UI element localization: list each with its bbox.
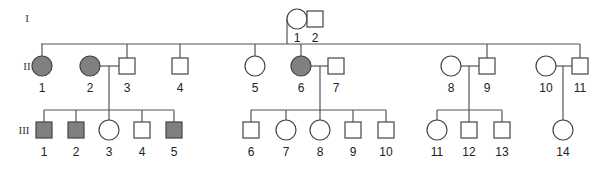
female-circle (553, 120, 573, 140)
individual-II-2: 2 (80, 56, 100, 95)
generation-label-III: III (19, 124, 30, 136)
individual-number: 3 (106, 145, 113, 159)
individual-number: 11 (574, 81, 587, 95)
individual-II-11: 11 (572, 58, 588, 95)
individual-number: 1 (294, 31, 301, 45)
male-square (378, 122, 394, 138)
individual-number: 14 (556, 145, 570, 159)
affected-female-circle (80, 56, 100, 76)
male-square (134, 122, 150, 138)
individual-number: 4 (139, 145, 146, 159)
individual-number: 9 (484, 81, 491, 95)
affected-male-square (166, 122, 182, 138)
individual-number: 4 (177, 81, 184, 95)
female-circle (427, 120, 447, 140)
individual-III-5: 5 (166, 122, 182, 159)
individual-III-12: 12 (461, 122, 477, 159)
individual-II-8: 8 (441, 56, 461, 95)
affected-female-circle (291, 56, 311, 76)
individual-number: 10 (379, 145, 393, 159)
individual-number: 5 (171, 145, 178, 159)
individual-III-10: 10 (378, 122, 394, 159)
female-circle (310, 120, 330, 140)
female-circle (245, 56, 265, 76)
individual-number: 6 (298, 81, 305, 95)
individual-number: 8 (317, 145, 324, 159)
male-square (328, 58, 344, 74)
individual-I-2: 2 (307, 11, 323, 45)
male-square (172, 58, 188, 74)
individual-III-11: 11 (427, 120, 447, 159)
male-square (307, 11, 323, 27)
individual-number: 5 (252, 81, 259, 95)
individual-number: 11 (431, 145, 444, 159)
individual-number: 1 (41, 145, 48, 159)
individual-III-14: 14 (553, 120, 573, 159)
affected-male-square (68, 122, 84, 138)
affected-male-square (36, 122, 52, 138)
male-square (461, 122, 477, 138)
individual-number: 2 (73, 145, 80, 159)
individual-number: 7 (333, 81, 340, 95)
individual-number: 6 (248, 145, 255, 159)
affected-female-circle (32, 56, 52, 76)
individual-number: 8 (448, 81, 455, 95)
male-square (479, 58, 495, 74)
individual-II-5: 5 (245, 56, 265, 95)
male-square (119, 58, 135, 74)
individual-II-6: 6 (291, 56, 311, 95)
individual-III-1: 1 (36, 122, 52, 159)
pedigree-diagram: I II III (0, 0, 605, 171)
individual-number: 2 (312, 31, 319, 45)
individual-II-9: 9 (479, 58, 495, 95)
female-circle (441, 56, 461, 76)
individual-II-3: 3 (119, 58, 135, 95)
male-square (494, 122, 510, 138)
individual-number: 7 (283, 145, 290, 159)
female-circle (287, 9, 307, 29)
individuals: 1212345678910111234567891011121314 (32, 9, 588, 159)
individual-III-4: 4 (134, 122, 150, 159)
female-circle (99, 120, 119, 140)
generation-label-I: I (25, 12, 29, 24)
individual-number: 9 (350, 145, 357, 159)
individual-I-1: 1 (287, 9, 307, 45)
male-square (572, 58, 588, 74)
individual-III-8: 8 (310, 120, 330, 159)
individual-number: 2 (87, 81, 94, 95)
generation-label-II: II (23, 60, 31, 72)
individual-III-6: 6 (243, 122, 259, 159)
individual-III-13: 13 (494, 122, 510, 159)
individual-III-3: 3 (99, 120, 119, 159)
female-circle (276, 120, 296, 140)
individual-number: 13 (495, 145, 509, 159)
individual-number: 12 (462, 145, 476, 159)
individual-number: 3 (124, 81, 131, 95)
individual-number: 10 (539, 81, 553, 95)
male-square (243, 122, 259, 138)
individual-III-7: 7 (276, 120, 296, 159)
male-square (345, 122, 361, 138)
individual-number: 1 (39, 81, 46, 95)
individual-II-10: 10 (536, 56, 556, 95)
individual-II-4: 4 (172, 58, 188, 95)
individual-II-7: 7 (328, 58, 344, 95)
female-circle (536, 56, 556, 76)
individual-II-1: 1 (32, 56, 52, 95)
individual-III-2: 2 (68, 122, 84, 159)
individual-III-9: 9 (345, 122, 361, 159)
